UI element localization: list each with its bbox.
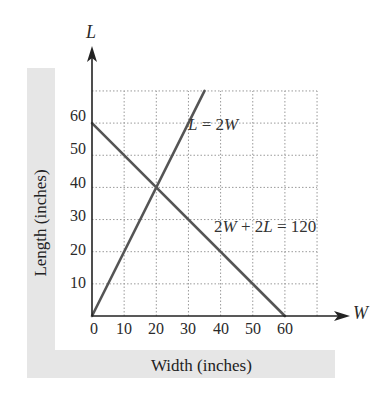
x-tick: 0 <box>90 320 98 338</box>
eq-text: 2 <box>214 217 223 236</box>
x-axis-title: Width (inches) <box>151 356 252 376</box>
chart-plot <box>0 0 392 397</box>
y-tick: 30 <box>56 207 86 225</box>
eq-text: = 2 <box>197 115 224 134</box>
y-tick: 10 <box>56 274 86 292</box>
x-tick: 40 <box>213 320 229 338</box>
y-tick: 40 <box>56 174 86 192</box>
eq-var: L <box>263 217 272 236</box>
eq-var: W <box>223 217 237 236</box>
eq-text: + 2 <box>237 217 264 236</box>
x-tick: 30 <box>180 320 196 338</box>
equation-label-l-equals-2w: L = 2W <box>188 115 238 135</box>
x-tick: 10 <box>116 320 132 338</box>
y-tick: 20 <box>56 241 86 259</box>
x-axis-variable: W <box>353 303 368 324</box>
y-axis-title: Length (inches) <box>31 169 51 276</box>
eq-text: = 120 <box>273 217 317 236</box>
eq-var: W <box>224 115 238 134</box>
y-tick: 60 <box>56 107 86 125</box>
x-tick: 20 <box>148 320 164 338</box>
y-tick: 50 <box>56 140 86 158</box>
x-tick: 60 <box>277 320 293 338</box>
equation-label-perimeter: 2W + 2L = 120 <box>214 217 316 237</box>
y-axis-variable: L <box>86 22 96 43</box>
x-tick: 50 <box>245 320 261 338</box>
